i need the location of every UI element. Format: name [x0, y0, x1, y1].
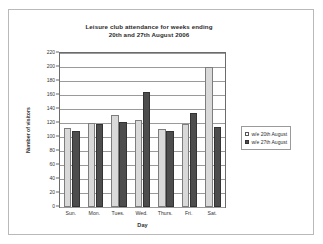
bar-mon-series-a[interactable]	[88, 123, 96, 207]
bar-group	[182, 53, 198, 207]
bar-group	[135, 53, 151, 207]
y-tick-label: 80	[49, 147, 55, 153]
bar-wed-series-a[interactable]	[135, 120, 143, 208]
x-tick-label: Thurs.	[158, 210, 173, 216]
bar-fri-series-b[interactable]	[190, 113, 198, 207]
y-tick-label: 20	[49, 189, 55, 195]
figure-frame: Leisure club attendance for weeks ending…	[8, 9, 314, 235]
bar-fri-series-a[interactable]	[182, 124, 190, 207]
bar-group	[111, 53, 127, 207]
x-axis-labels: Sun.Mon.Tues.Wed.Thurs.Fri.Sat.	[59, 210, 226, 222]
legend-label-series-a: w/e 20th August	[252, 131, 288, 137]
bars-layer	[60, 53, 225, 207]
x-tick-label: Sat.	[208, 210, 217, 216]
y-tick-label: 120	[47, 119, 55, 125]
chart-title-line-2: 20th and 27th August 2006	[49, 31, 249, 39]
legend-item-series-b: w/e 27th August	[245, 138, 287, 146]
chart-page: Leisure club attendance for weeks ending…	[0, 0, 323, 244]
legend-swatch-icon-series-b	[245, 140, 249, 144]
x-tick-label: Wed.	[135, 210, 147, 216]
bar-group	[158, 53, 174, 207]
y-tick-label: 180	[47, 77, 55, 83]
y-tick-label: 40	[49, 175, 55, 181]
bar-sat-series-a[interactable]	[205, 67, 213, 207]
x-axis-title: Day	[59, 222, 226, 228]
chart-title: Leisure club attendance for weeks ending…	[49, 23, 249, 40]
bar-group	[88, 53, 104, 207]
y-tick-label: 200	[47, 63, 55, 69]
bar-thurs-series-a[interactable]	[158, 129, 166, 207]
bar-sat-series-b[interactable]	[214, 127, 222, 207]
bar-wed-series-b[interactable]	[143, 92, 151, 208]
y-tick-label: 160	[47, 91, 55, 97]
bar-sun-series-a[interactable]	[64, 128, 72, 207]
bar-group	[64, 53, 80, 207]
chart-legend: w/e 20th August w/e 27th August	[241, 126, 291, 150]
bar-sun-series-b[interactable]	[72, 131, 80, 207]
chart-title-line-1: Leisure club attendance for weeks ending	[49, 23, 249, 31]
plot-area	[59, 52, 226, 208]
y-tick-label: 0	[52, 203, 55, 209]
y-tick-label: 60	[49, 161, 55, 167]
x-tick-label: Tues.	[112, 210, 125, 216]
bar-tues-series-b[interactable]	[119, 122, 127, 207]
legend-swatch-icon-series-a	[245, 132, 249, 136]
y-tick-label: 100	[47, 133, 55, 139]
y-tick-label: 140	[47, 105, 55, 111]
x-tick-label: Sun.	[65, 210, 76, 216]
x-tick-label: Fri.	[185, 210, 193, 216]
bar-thurs-series-b[interactable]	[166, 131, 174, 207]
legend-label-series-b: w/e 27th August	[252, 139, 288, 145]
bar-mon-series-b[interactable]	[96, 124, 104, 207]
x-tick-label: Mon.	[89, 210, 101, 216]
bar-tues-series-a[interactable]	[111, 115, 119, 207]
bar-group	[205, 53, 221, 207]
legend-item-series-a: w/e 20th August	[245, 130, 287, 138]
y-tick-label: 220	[47, 49, 55, 55]
gridline	[60, 207, 225, 208]
y-axis-ticks: 020406080100120140160180200220	[9, 52, 59, 208]
